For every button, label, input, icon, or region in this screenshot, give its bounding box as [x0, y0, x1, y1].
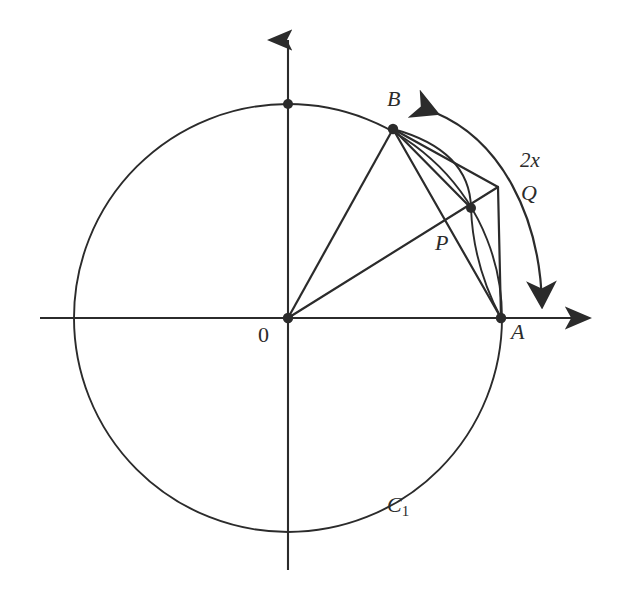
- diagram-canvas: [0, 0, 625, 595]
- label-point-p: P: [435, 232, 448, 254]
- geometry-figure: B A P Q 2x 0 C1: [0, 0, 625, 595]
- label-point-a: A: [511, 321, 524, 343]
- angle-arc-2x: [436, 113, 542, 305]
- label-point-b: B: [387, 88, 400, 110]
- segment-BA: [393, 129, 501, 318]
- label-arc-measure: 2x: [520, 150, 540, 171]
- point-circle-top: [283, 99, 293, 109]
- point-a: [496, 313, 506, 323]
- point-origin: [283, 313, 293, 323]
- point-p: [466, 203, 476, 213]
- point-markers: [283, 99, 506, 323]
- label-circle-subscript: 1: [402, 503, 409, 519]
- chords: [288, 129, 501, 318]
- axes: [40, 40, 588, 570]
- label-point-q: Q: [521, 182, 537, 204]
- label-origin: 0: [258, 324, 269, 346]
- label-circle-name: C: [387, 492, 402, 517]
- label-circle-c1: C1: [387, 494, 409, 519]
- segment-QA: [498, 187, 501, 318]
- point-b: [388, 124, 398, 134]
- segment-OB: [288, 129, 393, 318]
